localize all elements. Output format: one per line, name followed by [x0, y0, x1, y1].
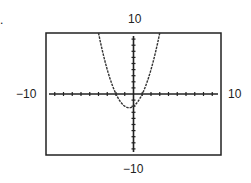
parabola-curve	[99, 33, 160, 108]
graph-window	[0, 0, 251, 183]
